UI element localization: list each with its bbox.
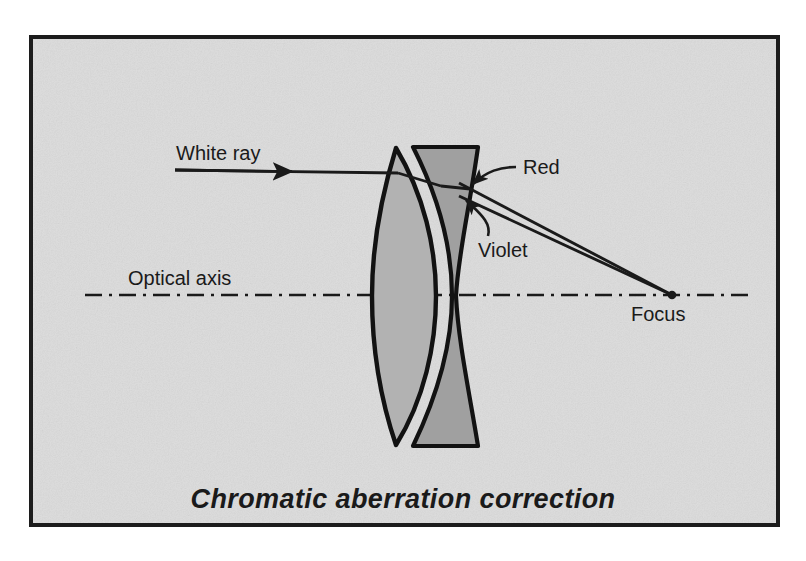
white-ray-direction-arrow	[175, 170, 292, 172]
optical-axis-label: Optical axis	[128, 267, 231, 289]
figure-title: Chromatic aberration correction	[191, 484, 616, 514]
focus-label: Focus	[631, 303, 685, 325]
optics-diagram: White ray Optical axis Red Violet Focus …	[0, 0, 806, 561]
red-label: Red	[523, 156, 560, 178]
figure-root: White ray Optical axis Red Violet Focus …	[0, 0, 806, 561]
focus-point	[668, 291, 677, 300]
violet-label: Violet	[478, 239, 528, 261]
white-ray-label: White ray	[176, 142, 260, 164]
